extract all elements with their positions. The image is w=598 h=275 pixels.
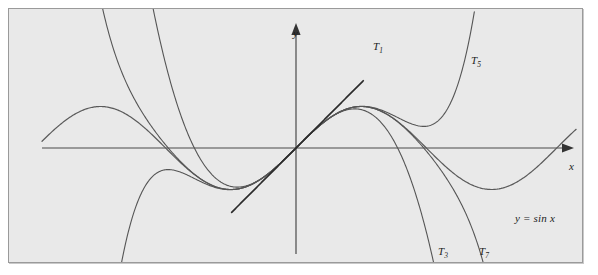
y-axis-label: y bbox=[293, 28, 298, 39]
label-t3-sub: 3 bbox=[444, 251, 448, 260]
x-axis-arrowhead bbox=[562, 143, 574, 152]
label-t1: T1 bbox=[373, 41, 383, 55]
curve-t7 bbox=[102, 9, 487, 262]
x-axis-label: x bbox=[569, 161, 574, 172]
curve-t3 bbox=[153, 9, 437, 262]
curves-group bbox=[42, 9, 576, 262]
label-t7: T7 bbox=[479, 246, 489, 260]
sine-equation-label: y = sin x bbox=[515, 213, 555, 224]
label-t3: T3 bbox=[438, 246, 448, 260]
label-t5: T5 bbox=[471, 55, 481, 69]
label-t1-sub: 1 bbox=[379, 46, 383, 55]
plot-canvas bbox=[9, 9, 582, 262]
curve-t1 bbox=[232, 81, 364, 213]
axes-group bbox=[42, 23, 574, 254]
label-t7-sub: 7 bbox=[485, 251, 489, 260]
label-t5-sub: 5 bbox=[477, 60, 481, 69]
figure-root: T1 T5 T3 T7 y x y = sin x bbox=[0, 0, 598, 275]
figure-frame: T1 T5 T3 T7 y x y = sin x bbox=[8, 8, 583, 263]
